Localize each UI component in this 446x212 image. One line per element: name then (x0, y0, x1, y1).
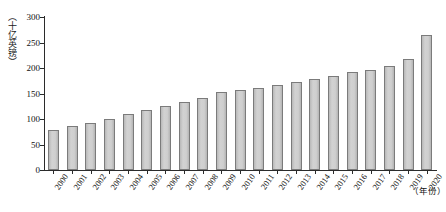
y-axis-title: （十亿英镑） (2, 12, 16, 66)
x-axis-tick-mark (221, 170, 222, 174)
x-axis-tick-label: 2001 (71, 172, 89, 192)
x-axis-tick-label: 2004 (127, 172, 145, 192)
x-axis-tick-mark (72, 170, 73, 174)
y-axis-tick-mark (40, 119, 44, 120)
bar (85, 123, 96, 170)
x-axis-tick-label: 2015 (333, 172, 351, 192)
x-axis-tick-mark (296, 170, 297, 174)
bar-chart: （十亿英镑） 050100150200250300 （年份） 200020012… (0, 0, 446, 212)
x-axis-tick-mark (259, 170, 260, 174)
y-axis-tick-label: 150 (27, 89, 41, 99)
bar (216, 92, 227, 170)
bar (48, 130, 59, 170)
y-axis-tick-label: 50 (31, 140, 40, 150)
x-axis-tick-mark (427, 170, 428, 174)
bar (347, 72, 358, 170)
x-axis-tick-mark (128, 170, 129, 174)
bar (235, 90, 246, 170)
x-axis-tick-mark (203, 170, 204, 174)
y-axis-tick-label: 300 (27, 12, 41, 22)
x-axis-tick-mark (408, 170, 409, 174)
bar (141, 110, 152, 170)
bar (104, 119, 115, 171)
bar (272, 85, 283, 170)
x-axis-tick-label: 2018 (389, 172, 407, 192)
x-axis-tick-mark (165, 170, 166, 174)
x-axis-tick-mark (315, 170, 316, 174)
y-axis-tick-mark (40, 94, 44, 95)
x-axis-tick-label: 2007 (183, 172, 201, 192)
x-axis-tick-label: 2017 (370, 172, 388, 192)
x-axis-tick-mark (333, 170, 334, 174)
bar (179, 102, 190, 170)
x-axis-tick-mark (352, 170, 353, 174)
x-axis-tick-mark (147, 170, 148, 174)
x-axis-tick-label: 2016 (351, 172, 369, 192)
x-axis-tick-mark (389, 170, 390, 174)
x-axis-tick-label: 2006 (165, 172, 183, 192)
bar (309, 79, 320, 170)
x-axis-tick-label: 2009 (221, 172, 239, 192)
bar (365, 70, 376, 170)
plot-area: 050100150200250300 (44, 17, 436, 170)
bar (253, 88, 264, 170)
y-axis-tick-label: 250 (27, 38, 41, 48)
x-axis-tick-label: 2002 (90, 172, 108, 192)
bar (403, 59, 414, 170)
x-axis-tick-mark (53, 170, 54, 174)
bar (328, 76, 339, 170)
bar (291, 82, 302, 170)
x-axis-tick-label: 2000 (53, 172, 71, 192)
x-axis-tick-label: 2003 (109, 172, 127, 192)
x-axis-tick-label: 2013 (295, 172, 313, 192)
x-axis-tick-mark (109, 170, 110, 174)
x-axis-tick-mark (277, 170, 278, 174)
y-axis-tick-mark (40, 170, 44, 171)
bar (67, 126, 78, 170)
bar (384, 66, 395, 170)
y-axis-tick-mark (40, 68, 44, 69)
x-axis-tick-label: 2011 (258, 172, 276, 191)
y-axis-tick-mark (40, 145, 44, 146)
x-axis-tick-label: 2008 (202, 172, 220, 192)
bar (421, 35, 432, 170)
x-axis-tick-mark (240, 170, 241, 174)
y-axis-tick-mark (40, 43, 44, 44)
y-axis-tick-mark (40, 17, 44, 18)
x-axis-tick-mark (184, 170, 185, 174)
x-axis-tick-mark (91, 170, 92, 174)
x-axis-tick-mark (371, 170, 372, 174)
bar (160, 106, 171, 170)
bar (123, 114, 134, 170)
x-axis-tick-label: 2005 (146, 172, 164, 192)
y-axis-tick-label: 200 (27, 63, 41, 73)
x-axis-tick-label: 2010 (239, 172, 257, 192)
y-axis-tick-label: 0 (36, 165, 41, 175)
y-axis-tick-label: 100 (27, 114, 41, 124)
bar (197, 98, 208, 170)
x-axis-tick-label: 2012 (277, 172, 295, 192)
x-axis-tick-label: 2014 (314, 172, 332, 192)
